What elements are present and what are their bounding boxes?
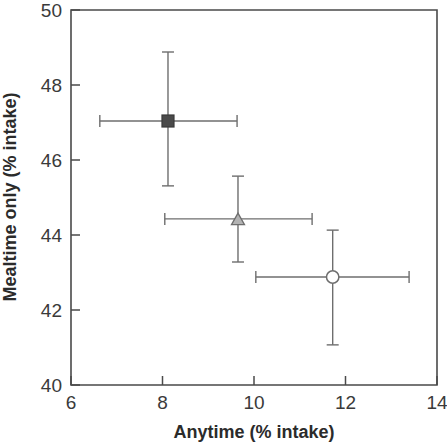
error-bar-open-circle xyxy=(256,230,409,345)
marker-square xyxy=(162,115,174,127)
y-tick-label: 48 xyxy=(41,75,62,96)
x-tick-label: 12 xyxy=(335,392,356,413)
scatter-chart: 68101214 404244464850 Anytime (% intake)… xyxy=(0,0,447,444)
data-markers xyxy=(162,115,339,283)
y-axis-tick-labels: 404244464850 xyxy=(41,0,63,396)
y-tick-label: 46 xyxy=(41,150,62,171)
x-axis-tick-labels: 68101214 xyxy=(66,392,447,413)
y-tick-label: 44 xyxy=(41,225,63,246)
marker-circle xyxy=(326,271,338,283)
axis-frame xyxy=(71,10,437,385)
y-axis-title: Mealtime only (% intake) xyxy=(0,92,20,301)
plot-canvas: 68101214 404244464850 Anytime (% intake)… xyxy=(0,0,447,444)
y-tick-label: 42 xyxy=(41,300,62,321)
x-axis-ticks xyxy=(71,376,437,385)
y-tick-label: 40 xyxy=(41,375,62,396)
error-bars xyxy=(100,52,409,345)
y-axis-ticks xyxy=(71,10,80,385)
x-tick-label: 8 xyxy=(157,392,168,413)
y-tick-label: 50 xyxy=(41,0,62,21)
x-axis-title: Anytime (% intake) xyxy=(173,422,334,442)
plot-frame xyxy=(71,10,437,385)
x-tick-label: 6 xyxy=(66,392,77,413)
x-tick-label: 14 xyxy=(426,392,447,413)
x-tick-label: 10 xyxy=(243,392,264,413)
